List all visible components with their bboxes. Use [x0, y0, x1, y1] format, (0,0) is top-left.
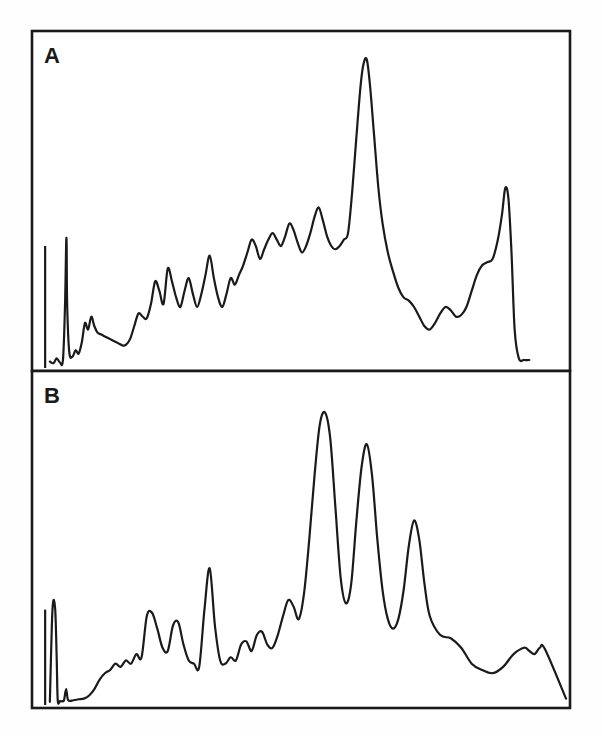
- panel-a-label: A: [44, 43, 60, 68]
- panel-b-frame: [32, 371, 570, 708]
- figure-root: A B: [0, 0, 602, 736]
- panel-a-frame: [32, 31, 570, 371]
- panel-b-label: B: [44, 383, 60, 408]
- panel-b: B: [32, 371, 570, 708]
- two-panel-chromatogram-figure: A B: [0, 0, 602, 736]
- panel-a: A: [32, 31, 570, 371]
